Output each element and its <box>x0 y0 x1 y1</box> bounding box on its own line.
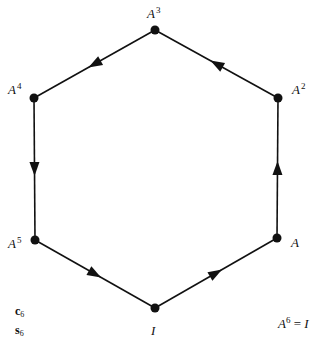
arrow-icon <box>86 266 103 282</box>
group-sub: 6 <box>20 329 24 338</box>
label-base: A <box>292 82 300 97</box>
label-I: I <box>151 324 155 337</box>
label-A3: A3 <box>147 6 160 20</box>
arrow-icon <box>86 56 103 72</box>
label-exponent: 5 <box>17 235 22 245</box>
group-name-s6: s6 <box>15 324 24 338</box>
node-A <box>273 234 282 243</box>
arrow-icon <box>208 56 225 72</box>
label-A: A <box>291 236 299 249</box>
label-exponent: 4 <box>17 81 22 91</box>
node-A3 <box>151 26 160 35</box>
label-exponent: 3 <box>156 5 161 15</box>
label-base: A <box>147 6 155 21</box>
group-name-c6: c6 <box>15 305 24 319</box>
label-A2: A2 <box>292 82 305 96</box>
nodes <box>30 26 283 313</box>
arrow-icon <box>272 161 282 175</box>
label-exponent: 2 <box>301 81 306 91</box>
arrow-icon <box>207 265 224 281</box>
label-base: A <box>291 235 299 250</box>
arrow-icon <box>29 162 39 176</box>
relation-rhs: I <box>304 316 308 331</box>
relation-operator: = <box>294 316 301 331</box>
label-A5: A5 <box>8 236 21 250</box>
node-A5 <box>31 236 40 245</box>
label-base: A <box>8 236 16 251</box>
edges <box>29 30 282 308</box>
cycle-graph <box>0 0 324 342</box>
node-A4 <box>30 94 39 103</box>
relation-exponent: 6 <box>286 315 291 325</box>
relation-equation: A6 = I <box>278 316 309 330</box>
relation-lhs: A <box>278 316 286 331</box>
group-sub: 6 <box>20 310 24 319</box>
node-I <box>151 304 160 313</box>
label-A4: A4 <box>8 82 21 96</box>
label-base: A <box>8 82 16 97</box>
label-base: I <box>151 323 155 338</box>
node-A2 <box>274 94 283 103</box>
